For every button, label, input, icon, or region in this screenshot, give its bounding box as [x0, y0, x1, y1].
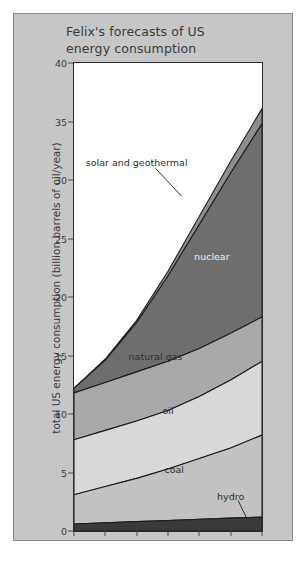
y-tick-label: 40 — [55, 58, 67, 69]
y-tick-label: 35 — [55, 116, 67, 127]
x-tick-mark — [168, 531, 169, 536]
y-tick-label: 5 — [61, 467, 67, 478]
stacked-area-series — [74, 63, 262, 531]
y-tick-label: 30 — [55, 175, 67, 186]
series-label-solar-and-geothermal: solar and geothermal — [86, 157, 188, 168]
y-tick-mark — [68, 63, 73, 64]
x-tick-label: 1970 — [62, 539, 86, 541]
x-tick-label: 2000 — [250, 539, 274, 541]
leader-line-solar-geothermal — [155, 168, 181, 196]
y-tick-label: 10 — [55, 409, 67, 420]
series-label-nuclear: nuclear — [194, 251, 229, 262]
y-tick-mark — [68, 238, 73, 239]
series-label-hydro: hydro — [217, 490, 244, 501]
x-tick-label: 1980 — [125, 539, 149, 541]
x-tick-mark — [105, 531, 106, 536]
y-tick-mark — [68, 414, 73, 415]
y-tick-label: 20 — [55, 292, 67, 303]
plot-area — [73, 62, 263, 532]
x-tick-mark — [74, 531, 75, 536]
chart-title-line-1: Felix's forecasts of US — [66, 23, 276, 40]
x-tick-label: 1975 — [93, 539, 117, 541]
chart-figure: Felix's forecasts of US energy consumpti… — [13, 13, 293, 541]
y-tick-mark — [68, 180, 73, 181]
y-tick-mark — [68, 297, 73, 298]
x-tick-label: 1995 — [219, 539, 243, 541]
x-tick-mark — [136, 531, 137, 536]
series-label-oil: oil — [162, 405, 173, 416]
y-tick-mark — [68, 355, 73, 356]
x-tick-label: 1990 — [187, 539, 211, 541]
series-label-coal: coal — [165, 463, 185, 474]
y-tick-label: 25 — [55, 233, 67, 244]
x-tick-mark — [262, 531, 263, 536]
y-axis-label: total US energy consumption (billion bar… — [50, 78, 62, 498]
x-tick-mark — [199, 531, 200, 536]
chart-title-line-2: energy consumption — [66, 40, 276, 57]
y-tick-label: 15 — [55, 350, 67, 361]
y-tick-mark — [68, 121, 73, 122]
plot-area-wrapper: 0510152025303540197019751980198519901995… — [73, 62, 277, 540]
y-tick-label: 0 — [61, 526, 67, 537]
chart-title: Felix's forecasts of US energy consumpti… — [66, 23, 276, 57]
y-tick-mark — [68, 472, 73, 473]
series-label-natural-gas: natural gas — [129, 350, 183, 361]
x-tick-label: 1985 — [156, 539, 180, 541]
y-tick-mark — [68, 531, 73, 532]
x-tick-mark — [230, 531, 231, 536]
